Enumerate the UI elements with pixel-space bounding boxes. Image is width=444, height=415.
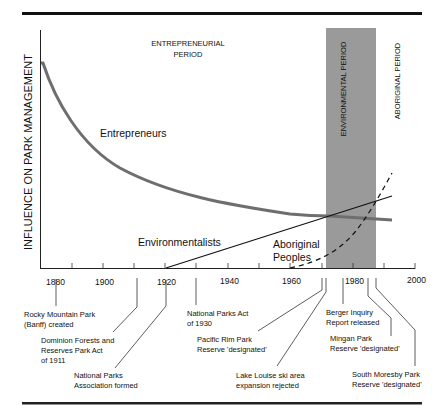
event-npa-line2: Association formed	[74, 381, 138, 390]
tick-label-1980: 1980	[345, 276, 364, 286]
series-label-entrepreneurs: Entrepreneurs	[100, 127, 167, 139]
y-axis-label: INFLUENCE ON PARK MANAGEMENT	[22, 54, 34, 250]
event-pacific-rim-line2: Reserve 'designated'	[197, 345, 267, 354]
environmental-period-band	[326, 28, 376, 269]
event-pacific-rim-line1: Pacific Rim Park	[197, 335, 252, 344]
tick-label-1940: 1940	[220, 276, 239, 286]
top-rule	[22, 12, 422, 15]
period-environmental-label: ENVIRONMENTAL PERIOD	[339, 41, 348, 136]
event-berger-line1: Berger Inquiry	[326, 308, 373, 317]
event-lake-louise-line2: expansion rejected	[236, 381, 299, 390]
event-south-moresby-line1: South Moresby Park	[352, 370, 420, 379]
tick-label-1920: 1920	[157, 277, 176, 287]
event-mingan-line1: Mingan Park	[330, 334, 372, 343]
event-labels: Rocky Mountain Park (Banff) created Domi…	[24, 308, 422, 390]
tick-label-2000: 2000	[407, 275, 426, 285]
event-rocky-mountain-line1: Rocky Mountain Park	[24, 310, 96, 319]
chart-canvas: 1880 1900 1920 1940 1960 1980 2000 INFLU…	[0, 0, 444, 415]
event-south-moresby-line2: Reserve 'designated'	[352, 380, 422, 389]
event-dominion-line2: Reserves Park Act	[41, 346, 104, 355]
event-berger-line2: Report released	[326, 318, 379, 327]
event-mingan-line2: Reserve 'designated'	[330, 344, 400, 353]
x-tick-labels: 1880 1900 1920 1940 1960 1980 2000	[46, 275, 426, 287]
tick-label-1900: 1900	[95, 277, 114, 287]
event-npa-line1: National Parks	[74, 371, 123, 380]
tick-label-1960: 1960	[282, 276, 301, 286]
period-aboriginal-label: ABORIGINAL PERIOD	[393, 42, 402, 119]
event-np-act-line1: National Parks Act	[187, 309, 249, 318]
event-dominion-line1: Dominion Forests and	[41, 336, 114, 345]
series-label-environmentalists: Environmentalists	[138, 236, 221, 248]
period-entrepreneurial-line2: PERIOD	[174, 50, 203, 59]
bottom-rule	[22, 402, 422, 405]
event-dominion-line3: of 1911	[41, 356, 65, 365]
event-rocky-mountain-line2: (Banff) created	[24, 320, 73, 329]
period-entrepreneurial-line1: ENTREPRENEURIAL	[151, 39, 224, 48]
tick-label-1880: 1880	[46, 277, 65, 287]
event-lake-louise-line1: Lake Louise ski area	[236, 371, 306, 380]
series-label-aboriginal-line1: Aboriginal	[273, 238, 320, 250]
series-label-aboriginal-line2: Peoples	[273, 251, 311, 263]
event-np-act-line2: of 1930	[187, 319, 212, 328]
